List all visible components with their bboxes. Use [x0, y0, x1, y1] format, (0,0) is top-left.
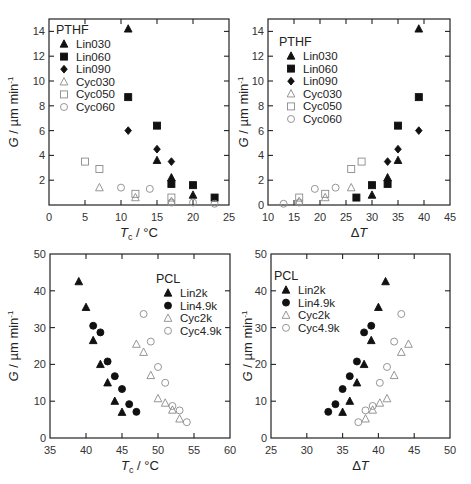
data-point	[104, 379, 112, 386]
data-point	[147, 371, 155, 378]
legend: PTHFLin030Lin060Lin090Cyc030Cyc050Cyc060	[279, 35, 342, 125]
data-point	[347, 183, 355, 190]
data-point	[376, 399, 384, 406]
data-point	[397, 348, 405, 355]
legend-marker-icon	[61, 104, 68, 111]
data-point	[89, 336, 97, 343]
x-tick-label: 10	[262, 211, 274, 223]
x-tick-label: 25	[223, 211, 235, 223]
x-tick-label: 5	[82, 211, 88, 223]
x-tick-label: 40	[80, 444, 92, 456]
data-point	[161, 399, 169, 406]
legend-label: Cyc060	[303, 113, 342, 125]
legend-title: PTHF	[279, 35, 312, 49]
y-tick-label: 20	[34, 358, 46, 370]
x-tick-label: 55	[188, 444, 200, 456]
data-point	[154, 145, 161, 153]
legend-marker-icon	[288, 65, 295, 72]
data-point	[146, 185, 153, 192]
x-tick-label: 35	[336, 444, 348, 456]
data-point	[332, 184, 339, 191]
x-tick-label: 40	[418, 211, 430, 223]
series-cyc060	[280, 184, 339, 207]
legend-marker-icon	[61, 53, 68, 60]
data-point	[96, 166, 103, 173]
data-point	[395, 145, 402, 153]
data-point	[346, 397, 354, 404]
legend-title: PTHF	[56, 23, 89, 37]
data-point	[168, 180, 175, 187]
legend-marker-icon	[164, 289, 172, 296]
data-point	[346, 373, 353, 380]
data-point	[140, 348, 148, 355]
series-lin060	[125, 94, 218, 201]
x-tick-label: 45	[116, 444, 128, 456]
data-point	[155, 363, 162, 370]
data-point	[176, 407, 183, 414]
y-tick-label: 0	[258, 199, 264, 211]
data-point	[97, 360, 105, 367]
y-tick-label: 14	[252, 25, 264, 37]
data-point	[125, 127, 132, 135]
legend-title: PCL	[274, 269, 298, 283]
data-point	[140, 310, 147, 317]
data-point	[353, 358, 360, 365]
series-lin090	[125, 127, 175, 166]
x-tick-label: 30	[366, 211, 378, 223]
legend-marker-icon	[164, 314, 172, 321]
legend-label: Cyc030	[303, 88, 342, 100]
legend-marker-icon	[282, 311, 290, 318]
data-point	[133, 340, 141, 347]
y-tick-label: 10	[33, 75, 45, 87]
data-point	[280, 200, 287, 207]
series-cyc030	[96, 183, 176, 204]
data-point	[118, 408, 126, 415]
x-tick-label: 15	[288, 211, 300, 223]
y-tick-label: 4	[39, 149, 45, 161]
data-point	[111, 373, 118, 380]
data-point	[111, 397, 119, 404]
legend-marker-icon	[282, 286, 290, 293]
panel-top-right-pthf-deltat: 101520253035404502468101214G / µm min-1Δ…	[236, 19, 456, 240]
legend-marker-icon	[288, 77, 295, 85]
data-point	[90, 322, 97, 329]
legend-marker-icon	[283, 299, 290, 306]
legend: PCLLin2kLin4.9kCyc2kCyc4.9k	[274, 269, 340, 334]
data-point	[104, 358, 111, 365]
y-tick-label: 0	[261, 432, 267, 444]
legend-marker-icon	[288, 103, 295, 110]
y-tick-label: 10	[252, 75, 264, 87]
y-tick-label: 4	[258, 149, 264, 161]
data-point	[398, 310, 405, 317]
data-point	[190, 182, 197, 189]
data-point	[375, 303, 383, 310]
x-tick-label: 60	[224, 444, 236, 456]
x-tick-label: 10	[115, 211, 127, 223]
x-tick-label: 50	[444, 444, 456, 456]
legend-label: Cyc060	[76, 101, 115, 113]
data-point	[133, 408, 140, 415]
legend-marker-icon	[165, 327, 172, 334]
legend-marker-icon	[61, 65, 68, 73]
data-point	[126, 401, 133, 408]
data-point	[415, 94, 422, 101]
legend-label: Lin060	[303, 63, 338, 75]
legend-marker-icon	[165, 302, 172, 309]
y-tick-label: 12	[252, 50, 264, 62]
data-point	[82, 303, 90, 310]
data-point	[153, 156, 161, 163]
x-tick-label: 20	[187, 211, 199, 223]
y-tick-label: 2	[39, 174, 45, 186]
data-point	[394, 156, 402, 163]
y-tick-label: 14	[33, 25, 45, 37]
data-point	[75, 277, 83, 284]
data-point	[376, 379, 383, 386]
y-axis-title: G / µm min-1	[240, 310, 255, 382]
data-point	[384, 158, 391, 166]
x-tick-label: 15	[151, 211, 163, 223]
legend-label: Lin030	[303, 50, 338, 62]
y-tick-label: 30	[255, 322, 267, 334]
y-tick-label: 0	[40, 432, 46, 444]
series-lin060	[353, 94, 422, 201]
y-tick-label: 50	[34, 248, 46, 260]
